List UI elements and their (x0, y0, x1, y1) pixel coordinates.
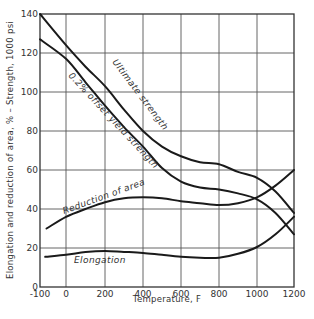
y-tick-label: 140 (21, 9, 38, 19)
x-tick-label: 1200 (283, 289, 306, 299)
yield-strength-label: 0.2% offset yield strength (67, 71, 161, 171)
reduction-of-area-label: Reduction of area (61, 177, 146, 216)
y-tick-label: 0 (32, 282, 38, 292)
x-tick-label: 200 (96, 289, 113, 299)
y-axis-label: Elongation and reduction of area, % – St… (5, 21, 15, 279)
y-tick-label: 40 (27, 204, 39, 214)
y-tick-label: 120 (21, 48, 38, 58)
x-tick-label: 800 (210, 289, 227, 299)
ultimate-strength-curve (40, 14, 294, 213)
x-tick-label: 1000 (246, 289, 269, 299)
elongation-label: Elongation (74, 255, 126, 265)
x-tick-label: 0 (63, 289, 69, 299)
x-axis-label: Temperature, F (132, 294, 201, 304)
y-axis-ticks: 020406080100120140 (21, 9, 38, 292)
y-tick-label: 60 (27, 165, 39, 175)
y-tick-label: 20 (27, 243, 39, 253)
y-tick-label: 80 (27, 126, 39, 136)
curves (40, 14, 294, 258)
chart: -100020040060080010001200 02040608010012… (0, 0, 314, 319)
y-tick-label: 100 (21, 87, 38, 97)
